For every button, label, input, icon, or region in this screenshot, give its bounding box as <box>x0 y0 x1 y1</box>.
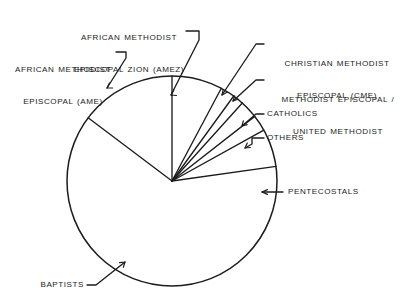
slice-label-ame: AFRICAN METHODIST EPISCOPAL (AME) <box>2 44 124 129</box>
slice-label-baptists: BAPTISTS <box>2 280 84 291</box>
slice-label-others: OTHERS <box>267 133 387 144</box>
slice-label-me-um-line1: METHODIST EPISCOPAL / <box>266 95 410 106</box>
slice-label-ame-line1: AFRICAN METHODIST <box>2 65 124 76</box>
leader-line-cme <box>222 44 264 95</box>
pie-chart-figure: AFRICAN METHODIST EPISCOPAL ZION (AMEZ) … <box>0 0 412 307</box>
leader-line-me-um <box>233 80 264 101</box>
slice-label-pentecostals: PENTECOSTALS <box>288 187 408 198</box>
slice-label-ame-line2: EPISCOPAL (AME) <box>2 97 124 108</box>
slice-label-amez-line1: AFRICAN METHODIST <box>64 33 194 44</box>
slice-label-catholics: CATHOLICS <box>267 109 387 120</box>
slice-label-cme-line1: CHRISTIAN METHODIST <box>266 59 408 70</box>
